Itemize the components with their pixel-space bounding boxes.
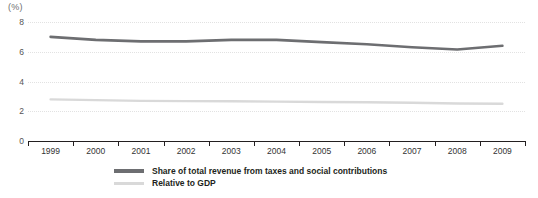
series-layer: [28, 22, 525, 141]
x-axis-category-label: 2000: [73, 146, 118, 156]
x-axis-category-label: 2004: [254, 146, 299, 156]
x-axis-line: [28, 141, 525, 142]
x-axis-category-label: 2009: [480, 146, 525, 156]
y-axis-tick-label: 6: [2, 47, 24, 57]
chart-legend: Share of total revenue from taxes and so…: [0, 166, 538, 188]
series-line-share-of-total-revenue: [51, 37, 503, 50]
legend-swatch-dark-icon: [114, 169, 144, 173]
x-axis-category-label: 2008: [435, 146, 480, 156]
y-axis-tick-label: 4: [2, 77, 24, 87]
series-line-relative-to-gdp: [51, 99, 503, 103]
x-axis-category-label: 1999: [28, 146, 73, 156]
x-axis-category-label: 2005: [299, 146, 344, 156]
x-axis-category-label: 2001: [118, 146, 163, 156]
y-axis-unit-label: (%): [8, 2, 23, 12]
y-axis-tick-label: 0: [2, 136, 24, 146]
y-axis-labels: 02468: [0, 22, 24, 141]
y-axis-tick-label: 2: [2, 106, 24, 116]
legend-label: Share of total revenue from taxes and so…: [152, 166, 387, 176]
x-axis-tick: [525, 141, 526, 146]
legend-item: Share of total revenue from taxes and so…: [114, 166, 424, 176]
line-chart: (%) 02468 199920002001200220032004200520…: [0, 0, 538, 198]
x-axis-category-label: 2007: [389, 146, 434, 156]
plot-area: [28, 22, 525, 141]
legend-swatch-light-icon: [114, 182, 144, 185]
y-axis-tick-label: 8: [2, 17, 24, 27]
legend-item: Relative to GDP: [114, 178, 424, 188]
x-axis-category-label: 2003: [209, 146, 254, 156]
legend-label: Relative to GDP: [152, 178, 216, 188]
x-axis-category-label: 2002: [164, 146, 209, 156]
x-axis-category-label: 2006: [344, 146, 389, 156]
